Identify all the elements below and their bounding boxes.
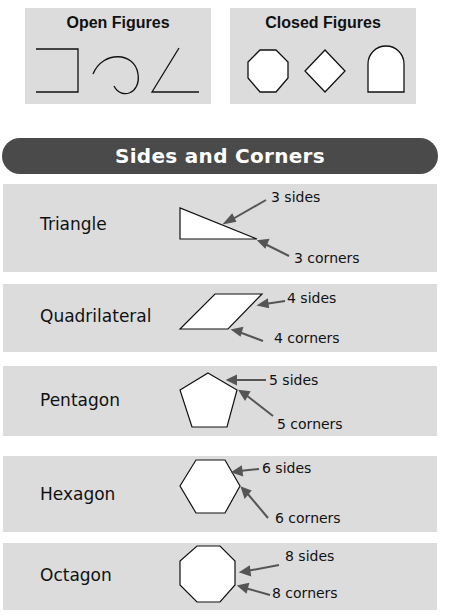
diamond-shape	[305, 50, 345, 92]
sides-label: 6 sides	[262, 460, 311, 476]
row-octagon: Octagon 8 sides 8 corners	[3, 543, 437, 610]
corners-label: 4 corners	[274, 330, 340, 346]
arrow-head-icon	[241, 567, 250, 575]
arrow-head-icon	[239, 584, 248, 592]
hexagon-shape	[180, 460, 240, 513]
open-figures-panel: Open Figures	[25, 8, 211, 104]
open-bracket-shape	[36, 49, 78, 92]
sides-label: 3 sides	[271, 189, 320, 205]
pentagon-diagram	[3, 366, 437, 436]
row-pentagon: Pentagon 5 sides 5 corners	[3, 366, 437, 436]
arrow-head-icon	[259, 300, 268, 307]
arrow-head-icon	[240, 391, 249, 399]
open-angle-shape	[152, 48, 199, 92]
corners-label: 8 corners	[272, 585, 338, 601]
arrow-head-icon	[233, 328, 242, 335]
sides-and-corners-banner: Sides and Corners	[2, 138, 438, 174]
arrow-head-icon	[259, 240, 268, 247]
parallelogram-shape	[180, 294, 262, 329]
closed-figures-drawings	[230, 8, 416, 104]
corners-label: 3 corners	[294, 250, 360, 266]
sides-label: 8 sides	[285, 548, 334, 564]
triangle-diagram	[3, 184, 437, 272]
arrow-head-icon	[225, 215, 235, 223]
arrow-head-icon	[233, 467, 242, 475]
arch-shape	[368, 46, 404, 92]
octagon-shape	[248, 50, 288, 92]
open-curve-shape	[93, 57, 138, 94]
octagon-diagram	[3, 543, 437, 610]
arrow-head-icon	[228, 376, 236, 384]
corners-label: 5 corners	[277, 416, 343, 432]
sides-label: 5 sides	[269, 372, 318, 388]
octagon-shape	[180, 546, 235, 602]
banner-title: Sides and Corners	[2, 144, 438, 168]
row-quadrilateral: Quadrilateral 4 sides 4 corners	[3, 284, 437, 352]
hexagon-diagram	[3, 456, 437, 532]
row-hexagon: Hexagon 6 sides 6 corners	[3, 456, 437, 532]
row-triangle: Triangle 3 sides 3 corners	[3, 184, 437, 272]
open-figures-drawings	[25, 8, 211, 104]
sides-label: 4 sides	[287, 290, 336, 306]
corners-label: 6 corners	[275, 510, 341, 526]
closed-figures-panel: Closed Figures	[230, 8, 416, 104]
quadrilateral-diagram	[3, 284, 437, 352]
